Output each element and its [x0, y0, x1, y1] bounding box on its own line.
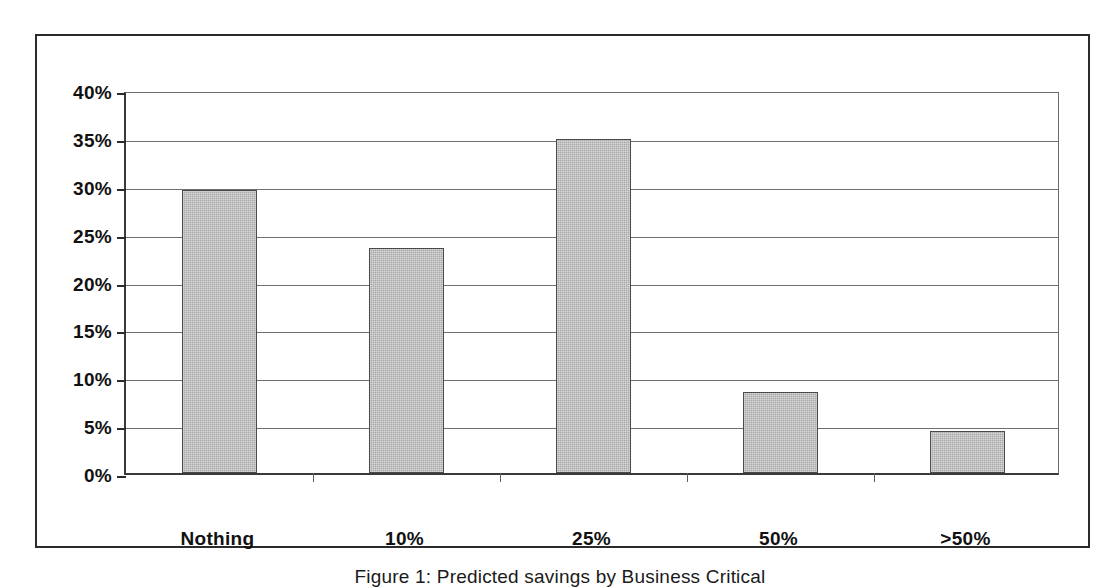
x-axis-tick — [313, 473, 314, 482]
x-axis-label: 25% — [572, 528, 611, 550]
x-axis-tick — [500, 473, 501, 482]
y-axis-tick — [117, 380, 126, 382]
y-axis-tick — [117, 428, 126, 430]
x-axis-label: 10% — [385, 528, 424, 550]
y-axis-tick — [117, 285, 126, 287]
y-axis-tick — [117, 476, 126, 478]
y-axis-label: 0% — [84, 465, 112, 487]
y-axis-label: 40% — [73, 82, 112, 104]
y-axis-tick — [117, 141, 126, 143]
figure-frame: 0%5%10%15%20%25%30%35%40% Nothing10%25%5… — [35, 34, 1090, 548]
y-axis-tick — [117, 189, 126, 191]
bar — [369, 248, 444, 473]
y-axis-label: 35% — [73, 130, 112, 152]
x-axis-label: 50% — [759, 528, 798, 550]
bar — [556, 139, 631, 473]
y-axis-label: 30% — [73, 178, 112, 200]
y-axis-label: 20% — [73, 274, 112, 296]
bar-chart: 0%5%10%15%20%25%30%35%40% Nothing10%25%5… — [37, 36, 1088, 546]
plot-area: 0%5%10%15%20%25%30%35%40% — [124, 92, 1059, 475]
y-axis-label: 10% — [73, 369, 112, 391]
y-axis-tick — [117, 93, 126, 95]
x-axis-tick — [687, 473, 688, 482]
bar — [930, 431, 1005, 473]
y-axis-tick — [117, 332, 126, 334]
y-axis-label: 5% — [84, 417, 112, 439]
x-axis-label: >50% — [940, 528, 990, 550]
y-axis-label: 25% — [73, 226, 112, 248]
figure-caption: Figure 1: Predicted savings by Business … — [0, 566, 1120, 588]
x-axis-label: Nothing — [181, 528, 255, 550]
bar — [743, 392, 818, 473]
y-axis-label: 15% — [73, 321, 112, 343]
x-axis-tick — [874, 473, 875, 482]
bar — [182, 190, 257, 473]
y-axis-tick — [117, 237, 126, 239]
